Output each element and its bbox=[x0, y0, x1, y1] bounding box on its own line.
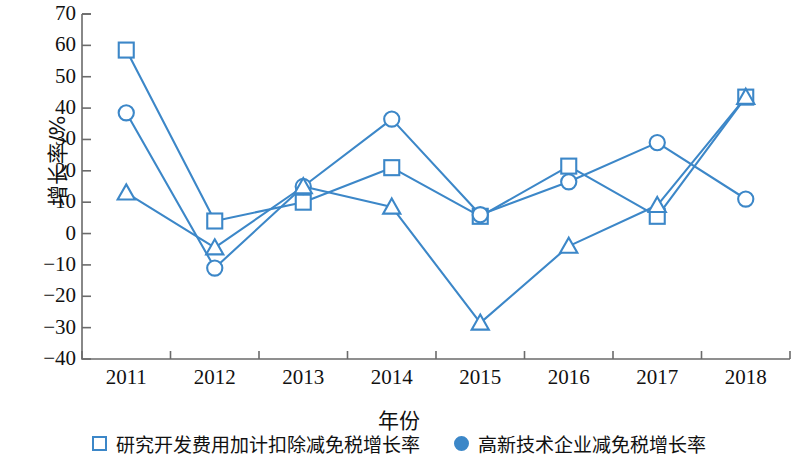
legend-label: 高新技术企业减免税增长率 bbox=[478, 430, 706, 457]
plot-area bbox=[0, 0, 797, 400]
x-tick-label: 2011 bbox=[86, 367, 166, 388]
legend-item-2: 高新技术企业减免税增长率 bbox=[454, 430, 706, 457]
chart-legend: 研究开发费用加计扣除减免税增长率高新技术企业减免税增长率 bbox=[0, 430, 797, 457]
x-tick-label: 2012 bbox=[175, 367, 255, 388]
series-triangle bbox=[118, 89, 755, 330]
x-tick-label: 2018 bbox=[706, 367, 786, 388]
x-tick-label: 2014 bbox=[352, 367, 432, 388]
x-tick-label: 2017 bbox=[617, 367, 697, 388]
x-tick-label: 2015 bbox=[440, 367, 520, 388]
axes bbox=[82, 14, 790, 359]
x-tick-label: 2013 bbox=[263, 367, 343, 388]
series-layer bbox=[118, 43, 755, 330]
legend-label: 研究开发费用加计扣除减免税增长率 bbox=[116, 430, 420, 457]
circle-marker-icon bbox=[454, 436, 469, 451]
x-tick-label: 2016 bbox=[529, 367, 609, 388]
square-marker-icon bbox=[92, 436, 107, 451]
legend-item-1: 研究开发费用加计扣除减免税增长率 bbox=[92, 430, 420, 457]
